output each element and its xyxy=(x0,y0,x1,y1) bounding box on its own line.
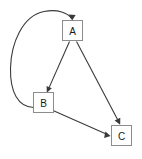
node-b[interactable]: B xyxy=(34,93,54,113)
diagram-canvas: A B C xyxy=(0,0,142,159)
edge-a-to-c[interactable] xyxy=(77,42,121,125)
edge-b-to-a-arrowhead xyxy=(69,15,76,21)
edge-b-to-c-arrowhead xyxy=(104,131,111,138)
node-b-label: B xyxy=(40,98,47,109)
edge-b-to-c-path xyxy=(53,111,107,135)
edge-a-to-c-path xyxy=(77,42,119,122)
edge-b-to-c[interactable] xyxy=(53,111,111,139)
graph-svg: A B C xyxy=(0,0,142,159)
node-c-label: C xyxy=(118,131,125,142)
node-a-label: A xyxy=(69,26,76,37)
edge-a-to-b-path xyxy=(48,42,69,90)
node-c[interactable]: C xyxy=(112,126,132,146)
node-a[interactable]: A xyxy=(63,21,83,41)
edge-a-to-b[interactable] xyxy=(47,42,70,93)
